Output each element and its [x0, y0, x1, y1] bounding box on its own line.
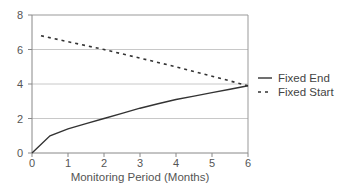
y-tick-label: 0	[17, 147, 23, 159]
series-lines	[32, 36, 248, 153]
x-tick-label: 4	[173, 157, 179, 169]
x-tick-label: 5	[209, 157, 215, 169]
y-tick-label: 2	[17, 113, 23, 125]
gridlines	[32, 15, 248, 119]
y-tick-label: 6	[17, 44, 23, 56]
y-tick-label: 8	[17, 9, 23, 21]
y-tick-label: 4	[17, 78, 23, 90]
series-fixed-end	[32, 86, 248, 153]
legend-label: Fixed End	[278, 72, 330, 84]
series-fixed-start	[41, 36, 248, 86]
axes	[28, 15, 248, 157]
x-tick-label: 3	[137, 157, 143, 169]
x-tick-label: 1	[65, 157, 71, 169]
x-tick-label: 0	[29, 157, 35, 169]
x-axis-label: Monitoring Period (Months)	[71, 171, 210, 183]
x-tick-label: 2	[101, 157, 107, 169]
line-chart: 024680123456 Monitoring Period (Months) …	[0, 0, 338, 194]
x-tick-label: 6	[245, 157, 251, 169]
legend: Fixed EndFixed Start	[258, 72, 334, 98]
tick-labels: 024680123456	[17, 9, 251, 169]
legend-label: Fixed Start	[278, 86, 334, 98]
